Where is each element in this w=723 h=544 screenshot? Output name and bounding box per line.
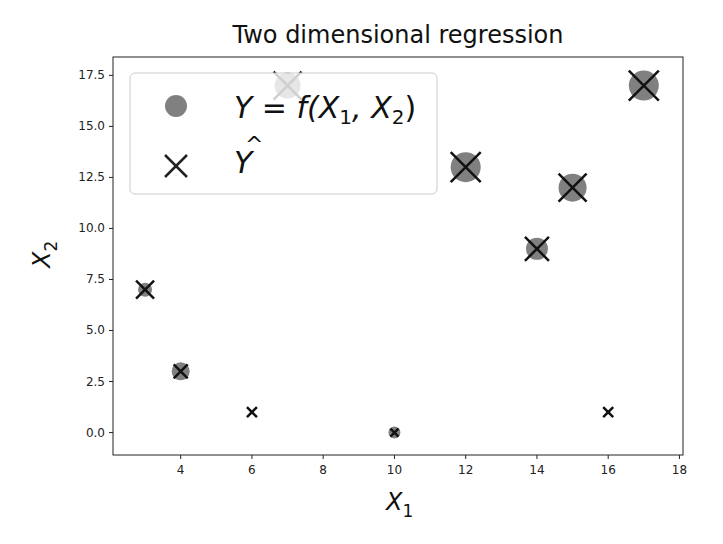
prediction-x-marker (603, 407, 613, 417)
x-tick-label: 14 (529, 463, 544, 477)
x-tick-label: 4 (177, 463, 185, 477)
x-tick-label: 8 (319, 463, 327, 477)
x-axis-ticks: 4681012141618 (177, 455, 687, 477)
y-tick-label: 15.0 (78, 119, 105, 133)
x-axis-label: X1 (384, 488, 413, 521)
x-tick-label: 10 (387, 463, 402, 477)
x-tick-label: 6 (248, 463, 256, 477)
scatter-chart: Two dimensional regression 4681012141618… (0, 0, 723, 544)
y-axis-label: X2 (28, 241, 61, 270)
legend-hat-glyph: ^ (245, 132, 263, 157)
x-tick-label: 12 (458, 463, 473, 477)
chart-title: Two dimensional regression (232, 21, 564, 49)
y-axis-ticks: 0.02.55.07.510.012.515.017.5 (78, 68, 113, 439)
y-tick-label: 17.5 (78, 68, 105, 82)
y-tick-label: 10.0 (78, 221, 105, 235)
x-tick-label: 16 (601, 463, 616, 477)
y-tick-label: 0.0 (86, 426, 105, 440)
y-tick-label: 12.5 (78, 170, 105, 184)
prediction-x-marker (247, 407, 257, 417)
y-tick-label: 7.5 (86, 272, 105, 286)
y-tick-label: 2.5 (86, 375, 105, 389)
legend-circle-icon (165, 95, 187, 117)
legend-label-y: Y = f(X1, X2) (234, 90, 416, 129)
legend: Y = f(X1, X2) Y ^ (130, 73, 437, 194)
x-tick-label: 18 (672, 463, 687, 477)
y-tick-label: 5.0 (86, 323, 105, 337)
